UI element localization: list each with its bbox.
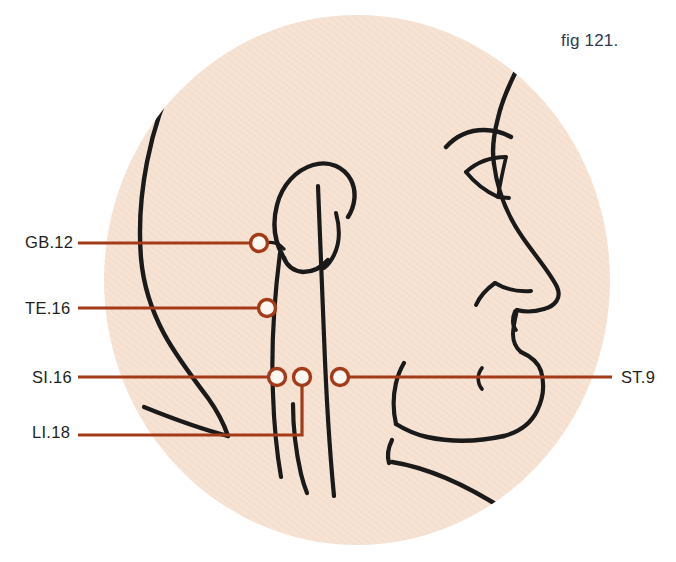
figure-container: GB.12 TE.16 SI.16 LI.18 ST.9 fig 121. [0,0,676,562]
point-label-li18: LI.18 [32,424,70,441]
point-label-te16: TE.16 [25,300,71,317]
point-marker-si16 [269,369,286,386]
point-marker-gb12 [251,235,268,252]
point-label-si16: SI.16 [32,369,72,386]
point-label-st9: ST.9 [621,369,655,386]
point-marker-li18 [294,369,311,386]
background-ellipse [104,15,610,545]
point-marker-st9 [332,369,349,386]
point-label-gb12: GB.12 [25,234,73,251]
figure-caption: fig 121. [561,32,618,49]
anatomy-illustration [0,0,676,562]
point-marker-te16 [259,300,276,317]
